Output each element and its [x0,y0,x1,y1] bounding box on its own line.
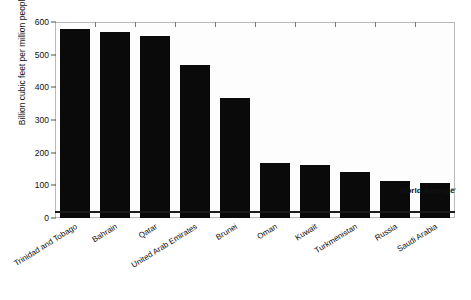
top-tick-mark [215,22,216,27]
top-tick-mark [295,22,296,27]
y-tick-label: 0 [0,213,55,223]
top-tick-mark [135,22,136,27]
bar [300,165,330,218]
y-tick-label: 100 [0,180,55,190]
top-tick-mark [335,22,336,27]
y-tick-mark [51,218,56,219]
y-tick-label: 200 [0,148,55,158]
bar [140,36,170,218]
top-tick-mark [95,22,96,27]
y-tick-mark [51,22,56,23]
y-tick-label: 500 [0,50,55,60]
y-tick-mark [51,120,56,121]
y-tick-mark [51,87,56,88]
top-tick-mark [375,22,376,27]
bar [100,32,130,218]
bar [180,65,210,218]
y-tick-label: 300 [0,115,55,125]
y-tick-mark [51,152,56,153]
bar-chart: Billion cubic feet per million people 01… [0,0,471,300]
y-tick-mark [51,54,56,55]
bar [60,29,90,218]
bar [260,163,290,218]
top-tick-mark [415,22,416,27]
y-tick-label: 600 [0,17,55,27]
bar [220,98,250,218]
world-average-label: World Average [399,186,455,195]
y-tick-label: 400 [0,82,55,92]
top-tick-mark [255,22,256,27]
y-tick-mark [51,185,56,186]
world-average-line [55,211,455,213]
top-tick-mark [175,22,176,27]
